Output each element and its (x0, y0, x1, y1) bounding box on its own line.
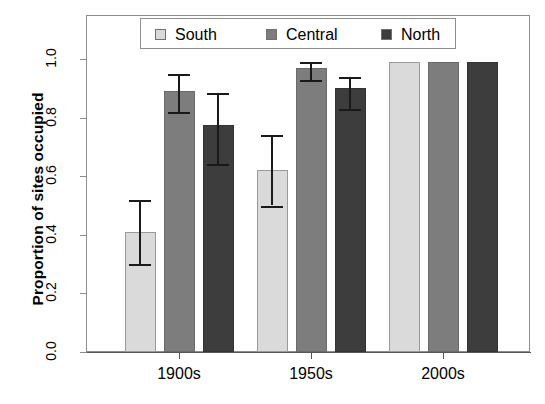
legend-swatch-icon-north (381, 29, 392, 40)
error-bar-cap-lower-north-1950s (339, 109, 361, 111)
legend-label-north: North (401, 26, 440, 44)
y-tick-mark (80, 59, 87, 60)
error-bar-stem-north-1950s (349, 77, 351, 109)
legend-swatch-icon-south (155, 29, 166, 40)
y-tick-mark (80, 176, 87, 177)
bar-central-2000s (428, 62, 459, 352)
error-bar-cap-upper-central-1900s (168, 74, 190, 76)
cropped-caption-sliver (205, 1, 355, 7)
legend-item-central: Central (266, 19, 338, 50)
y-tick-label: 0.4 (43, 211, 59, 257)
bar-south-2000s (389, 62, 420, 352)
y-tick-label: 0.8 (43, 94, 59, 140)
error-bar-cap-lower-south-1950s (261, 206, 283, 208)
y-tick-label: 0.2 (43, 269, 59, 315)
legend-label-south: South (175, 26, 217, 44)
y-tick-label: 0.0 (43, 328, 59, 374)
x-tick-mark (311, 352, 312, 359)
bar-north-2000s (467, 62, 498, 352)
legend-item-south: South (155, 19, 217, 50)
error-bar-cap-upper-south-1900s (129, 200, 151, 202)
error-bar-cap-upper-north-1900s (207, 93, 229, 95)
y-axis-line (86, 15, 87, 353)
y-tick-label: 0.6 (43, 152, 59, 198)
legend-item-north: North (381, 19, 440, 50)
error-bar-stem-north-1900s (217, 93, 219, 165)
bar-north-1950s (335, 88, 366, 352)
error-bar-cap-lower-central-1900s (168, 112, 190, 114)
y-tick-mark (80, 352, 87, 353)
error-bar-cap-upper-south-1950s (261, 135, 283, 137)
bar-chart-figure: Proportion of sites occupied 0.00.20.40.… (0, 0, 545, 404)
x-tick-mark (443, 352, 444, 359)
y-tick-mark (80, 293, 87, 294)
error-bar-cap-upper-central-1950s (300, 62, 322, 64)
error-bar-stem-central-1900s (178, 74, 180, 112)
legend: South Central North (140, 18, 456, 49)
y-tick-mark (80, 118, 87, 119)
x-tick-label: 1950s (251, 365, 371, 383)
x-axis-line (86, 352, 531, 353)
error-bar-stem-south-1900s (139, 200, 141, 264)
x-tick-mark (179, 352, 180, 359)
error-bar-cap-lower-south-1900s (129, 264, 151, 266)
y-tick-label: 1.0 (43, 35, 59, 81)
bar-central-1900s (164, 91, 195, 352)
bar-central-1950s (296, 68, 327, 352)
x-tick-label: 1900s (119, 365, 239, 383)
y-tick-mark (80, 235, 87, 236)
error-bar-stem-central-1950s (310, 62, 312, 80)
legend-label-central: Central (286, 26, 338, 44)
legend-swatch-icon-central (266, 29, 277, 40)
error-bar-cap-lower-central-1950s (300, 80, 322, 82)
error-bar-cap-lower-north-1900s (207, 164, 229, 166)
error-bar-stem-south-1950s (271, 135, 273, 205)
x-tick-label: 2000s (383, 365, 503, 383)
error-bar-cap-upper-north-1950s (339, 77, 361, 79)
